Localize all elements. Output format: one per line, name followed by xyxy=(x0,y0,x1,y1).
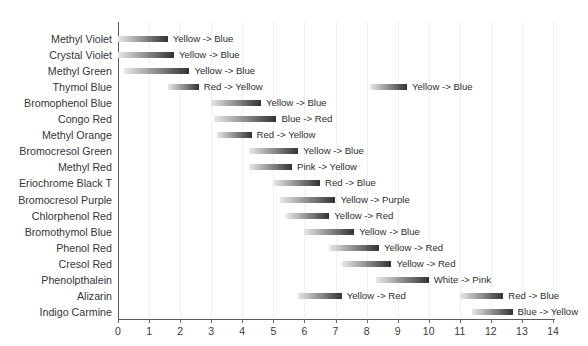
range-bar xyxy=(211,100,261,106)
x-tick-label: 11 xyxy=(445,325,475,338)
range-bar xyxy=(118,36,168,42)
range-bar-label: Yellow -> Blue xyxy=(412,79,473,95)
range-bar xyxy=(280,197,336,203)
chart-row: Bromophenol BlueYellow -> Blue xyxy=(0,95,588,111)
range-bar xyxy=(273,180,320,186)
category-label: Alizarin xyxy=(0,288,112,304)
range-bar-label: Yellow -> Blue xyxy=(303,143,364,159)
range-bar xyxy=(217,132,251,138)
range-bar-label: Red -> Blue xyxy=(508,288,559,304)
chart-row: Bromocresol PurpleYellow -> Purple xyxy=(0,192,588,208)
x-tick-label: 4 xyxy=(227,325,257,338)
range-bar xyxy=(118,52,174,58)
category-label: Cresol Red xyxy=(0,256,112,272)
category-label: Phenol Red xyxy=(0,240,112,256)
category-label: Indigo Carmine xyxy=(0,304,112,320)
range-bar-label: Blue -> Yellow xyxy=(518,304,579,320)
range-bar-label: Blue -> Red xyxy=(281,111,332,127)
range-bar xyxy=(376,277,429,283)
category-label: Methyl Violet xyxy=(0,31,112,47)
category-label: Bromophenol Blue xyxy=(0,95,112,111)
x-tick-label: 5 xyxy=(258,325,288,338)
category-label: Bromothymol Blue xyxy=(0,224,112,240)
range-bar xyxy=(342,261,392,267)
range-bar xyxy=(168,84,199,90)
range-bar-label: Yellow -> Blue xyxy=(359,224,420,240)
range-bar-label: Yellow -> Blue xyxy=(173,31,234,47)
chart-row: Methyl OrangeRed -> Yellow xyxy=(0,127,588,143)
x-tick-label: 9 xyxy=(383,325,413,338)
x-tick-label: 8 xyxy=(352,325,382,338)
range-bar-label: White -> Pink xyxy=(434,272,491,288)
chart-row: Cresol RedYellow -> Red xyxy=(0,256,588,272)
category-label: Methyl Green xyxy=(0,63,112,79)
chart-row: Thymol BlueRed -> YellowYellow -> Blue xyxy=(0,79,588,95)
range-bar xyxy=(286,213,330,219)
category-label: Crystal Violet xyxy=(0,47,112,63)
category-label: Congo Red xyxy=(0,111,112,127)
chart-row: Bromocresol GreenYellow -> Blue xyxy=(0,143,588,159)
category-label: Bromocresol Purple xyxy=(0,192,112,208)
chart-row: Indigo CarmineBlue -> Yellow xyxy=(0,304,588,320)
x-tick-label: 12 xyxy=(476,325,506,338)
chart-row: Phenol RedYellow -> Red xyxy=(0,240,588,256)
range-bar-label: Yellow -> Blue xyxy=(179,47,240,63)
range-bar-label: Yellow -> Red xyxy=(396,256,455,272)
category-label: Methyl Red xyxy=(0,159,112,175)
chart-row: Crystal VioletYellow -> Blue xyxy=(0,47,588,63)
chart-row: Chlorphenol RedYellow -> Red xyxy=(0,208,588,224)
x-tick-label: 1 xyxy=(134,325,164,338)
range-bar-label: Yellow -> Red xyxy=(334,208,393,224)
range-bar xyxy=(249,148,299,154)
chart-row: Methyl VioletYellow -> Blue xyxy=(0,31,588,47)
category-label: Bromocresol Green xyxy=(0,143,112,159)
range-bar-label: Red -> Yellow xyxy=(257,127,316,143)
range-bar xyxy=(329,245,379,251)
chart-row: Methyl RedPink -> Yellow xyxy=(0,159,588,175)
category-label: Thymol Blue xyxy=(0,79,112,95)
range-bar xyxy=(472,309,512,315)
x-tick-label: 14 xyxy=(538,325,568,338)
category-label: Methyl Orange xyxy=(0,127,112,143)
range-bar-label: Yellow -> Red xyxy=(347,288,406,304)
x-tick-label: 10 xyxy=(414,325,444,338)
chart-row: AlizarinYellow -> RedRed -> Blue xyxy=(0,288,588,304)
x-tick-label: 7 xyxy=(321,325,351,338)
range-bar-label: Pink -> Yellow xyxy=(297,159,357,175)
x-tick-label: 13 xyxy=(507,325,537,338)
ph-indicator-range-chart: 01234567891011121314 Methyl VioletYellow… xyxy=(0,0,588,346)
range-bar-label: Red -> Yellow xyxy=(204,79,263,95)
x-tick-label: 6 xyxy=(289,325,319,338)
category-label: Phenolpthalein xyxy=(0,272,112,288)
x-tick-label: 3 xyxy=(196,325,226,338)
x-tick-label: 0 xyxy=(103,325,133,338)
range-bar xyxy=(460,293,504,299)
chart-row: PhenolpthaleinWhite -> Pink xyxy=(0,272,588,288)
range-bar xyxy=(214,116,276,122)
range-bar xyxy=(370,84,407,90)
range-bar-label: Yellow -> Purple xyxy=(341,192,410,208)
chart-row: Eriochrome Black TRed -> Blue xyxy=(0,175,588,191)
category-label: Eriochrome Black T xyxy=(0,175,112,191)
range-bar xyxy=(249,164,293,170)
chart-row: Congo RedBlue -> Red xyxy=(0,111,588,127)
range-bar-label: Yellow -> Red xyxy=(384,240,443,256)
range-bar-label: Red -> Blue xyxy=(325,175,376,191)
range-bar xyxy=(298,293,342,299)
range-bar xyxy=(304,229,354,235)
range-bar xyxy=(124,68,189,74)
range-bar-label: Yellow -> Blue xyxy=(194,63,255,79)
range-bar-label: Yellow -> Blue xyxy=(266,95,327,111)
category-label: Chlorphenol Red xyxy=(0,208,112,224)
x-tick-label: 2 xyxy=(165,325,195,338)
chart-row: Bromothymol BlueYellow -> Blue xyxy=(0,224,588,240)
chart-row: Methyl GreenYellow -> Blue xyxy=(0,63,588,79)
